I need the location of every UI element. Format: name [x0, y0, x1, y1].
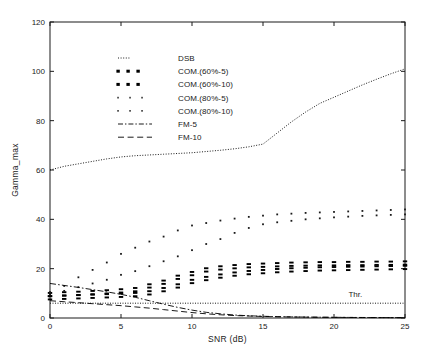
marker [291, 213, 293, 215]
legend-item-com-80-5-: COM.(80%-5) [117, 94, 228, 103]
marker [205, 243, 207, 245]
marker [303, 261, 307, 263]
marker [332, 269, 336, 271]
axis-tick-labels: 0510152025020406080100120 [32, 18, 410, 331]
marker [248, 216, 250, 218]
marker [333, 216, 335, 218]
marker [105, 289, 109, 291]
legend-label: FM-5 [178, 120, 198, 129]
legend-item-dsb: DSB [118, 54, 195, 63]
legend-label: COM.(80%-10) [178, 107, 233, 116]
marker [49, 291, 51, 293]
marker [390, 214, 392, 216]
marker [204, 267, 208, 269]
legend-label: COM.(80%-5) [178, 94, 229, 103]
marker [176, 275, 180, 277]
legend-item-com-60-10-: COM.(60%-10) [116, 80, 233, 89]
marker [248, 227, 250, 229]
marker [289, 267, 293, 269]
legend-sample [126, 70, 129, 73]
legend-label: DSB [178, 54, 195, 63]
marker [318, 270, 322, 272]
marker [62, 298, 66, 300]
marker [161, 283, 165, 285]
marker [147, 290, 151, 292]
marker [133, 287, 137, 289]
marker [232, 267, 236, 269]
marker [220, 220, 222, 222]
marker [105, 297, 109, 299]
marker [346, 264, 350, 266]
legend-item-fm-10: FM-10 [118, 133, 202, 142]
marker [204, 279, 208, 281]
marker [262, 223, 264, 225]
series-fm-5 [50, 283, 405, 317]
marker [191, 249, 193, 251]
legend-sample [117, 97, 119, 99]
y-tick-label: 80 [36, 117, 45, 126]
marker [234, 218, 236, 220]
marker [105, 293, 109, 295]
marker [147, 294, 151, 296]
x-tick-label: 15 [259, 322, 268, 331]
legend-label: COM.(60%-5) [178, 67, 229, 76]
marker [106, 279, 108, 281]
marker [346, 261, 350, 263]
marker [303, 265, 307, 267]
marker [318, 261, 322, 263]
marker [303, 267, 307, 269]
marker [220, 238, 222, 240]
marker [362, 210, 364, 212]
legend-item-fm-5: FM-5 [118, 120, 198, 129]
marker [149, 241, 151, 243]
marker [232, 271, 236, 273]
legend-sample [129, 97, 131, 99]
marker [275, 268, 279, 270]
marker [276, 221, 278, 223]
marker [204, 276, 208, 278]
marker [390, 209, 392, 211]
marker [177, 230, 179, 232]
legend-sample [136, 70, 139, 73]
marker [289, 271, 293, 273]
marker [176, 283, 180, 285]
y-tick-label: 60 [36, 166, 45, 175]
marker [403, 268, 407, 270]
marker [374, 265, 378, 267]
marker [161, 287, 165, 289]
marker [147, 283, 151, 285]
y-tick-label: 40 [36, 215, 45, 224]
marker [261, 272, 265, 274]
marker [289, 265, 293, 267]
marker [247, 273, 251, 275]
marker [134, 270, 136, 272]
marker [190, 279, 194, 281]
marker [291, 220, 293, 222]
x-axis-title: SNR (dB) [208, 334, 247, 344]
x-tick-label: 0 [48, 322, 53, 331]
legend-item-com-60-5-: COM.(60%-5) [116, 67, 228, 76]
marker [218, 269, 222, 271]
marker [318, 266, 322, 268]
marker [63, 290, 65, 292]
marker [90, 297, 94, 299]
marker [318, 264, 322, 266]
marker [289, 262, 293, 264]
marker [404, 209, 406, 211]
marker [163, 236, 165, 238]
marker [346, 266, 350, 268]
marker [190, 282, 194, 284]
marker [76, 294, 80, 296]
x-tick-label: 5 [119, 322, 124, 331]
marker [303, 270, 307, 272]
marker [332, 266, 336, 268]
marker [163, 260, 165, 262]
marker [360, 269, 364, 271]
legend-sample [116, 70, 119, 73]
marker [133, 290, 137, 292]
marker [120, 274, 122, 276]
marker [120, 253, 122, 255]
x-tick-label: 10 [188, 322, 197, 331]
marker [106, 262, 108, 264]
threshold-label: Thr. [348, 290, 362, 299]
